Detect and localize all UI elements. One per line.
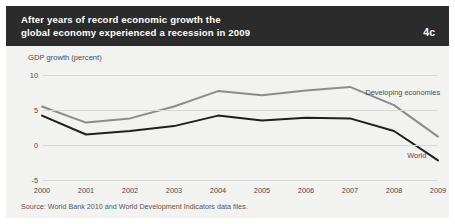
x-axis-tick-2002: 2002 [122,186,138,195]
series-line-world [42,116,438,161]
x-axis-tick-2008: 2008 [386,186,402,195]
chart-body: GDP growth (percent) 1050-52000200120022… [6,46,449,218]
y-axis-tick-5: 5 [34,106,38,115]
series-label-developing-economies: Developing economies [365,88,440,97]
x-axis-tick-2000: 2000 [34,186,50,195]
gridline--5: -5 [42,180,438,181]
x-axis-tick-2006: 2006 [298,186,314,195]
y-axis-tick-0: 0 [34,141,38,150]
y-axis-tick-10: 10 [30,71,38,80]
source-note: Source: World Bank 2010 and World Develo… [21,202,248,211]
x-axis-tick-2005: 2005 [254,186,270,195]
title-line-1: After years of record economic growth th… [21,13,351,26]
x-axis-tick-2003: 2003 [166,186,182,195]
x-axis-tick-2004: 2004 [210,186,226,195]
x-axis-tick-2007: 2007 [342,186,358,195]
figure-title: After years of record economic growth th… [21,13,351,39]
plot-area: 1050-52000200120022003200420052006200720… [42,75,438,180]
x-axis-tick-2001: 2001 [78,186,94,195]
y-axis-tick--5: -5 [31,176,38,185]
title-band: After years of record economic growth th… [6,6,449,46]
gridline-0: 0 [42,145,438,146]
series-label-world: World [407,151,426,160]
figure-number-badge: 4c [423,26,435,38]
x-axis-tick-2009: 2009 [430,186,446,195]
y-axis-title: GDP growth (percent) [28,53,102,62]
gridline-10: 10 [42,75,438,76]
title-line-2: global economy experienced a recession i… [21,26,351,39]
gridline-5: 5 [42,110,438,111]
figure-container: After years of record economic growth th… [0,0,455,224]
